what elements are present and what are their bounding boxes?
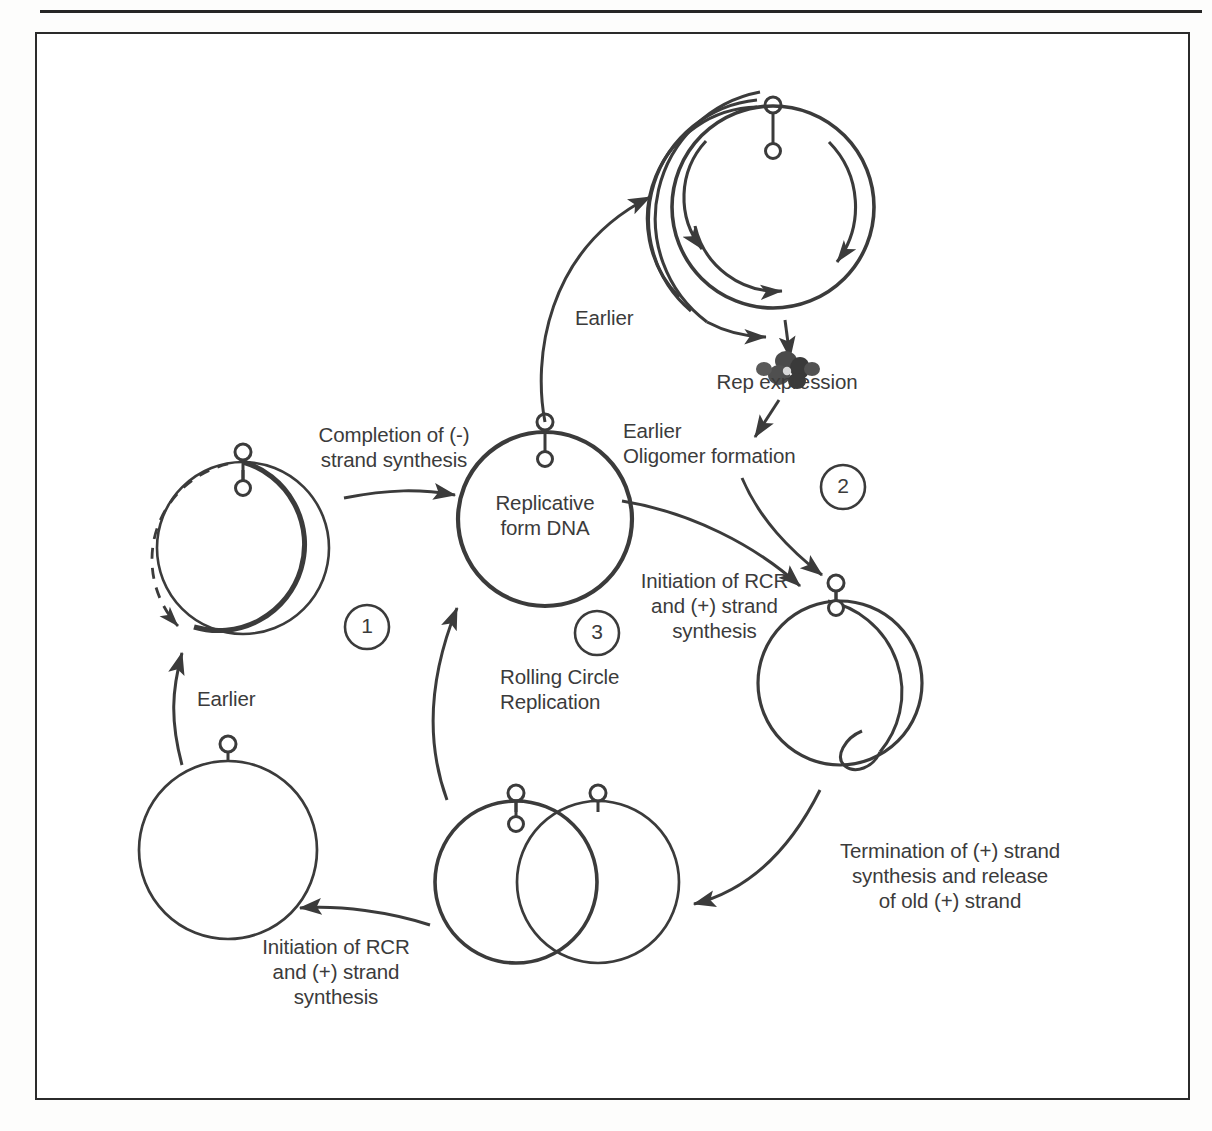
label-earlier-top: Earlier: [575, 305, 695, 330]
arrow-initiation-bottom: [300, 907, 430, 925]
label-initiation-rcr-bottom: Initiation of RCR and (+) strand synthes…: [230, 934, 442, 1009]
label-completion-minus-strand: Completion of (-) strand synthesis: [282, 422, 506, 472]
diagram-canvas: [0, 0, 1212, 1131]
step-badge-3-number: 3: [577, 619, 617, 644]
partially-double-stranded-circle: [152, 444, 329, 634]
step-badge-2-number: 2: [823, 473, 863, 498]
arrow-completion-minus-strand: [344, 491, 455, 498]
label-earlier-oligomer-formation: Earlier Oligomer formation: [623, 418, 873, 468]
step-badge-1-number: 1: [347, 613, 387, 638]
arrow-earlier-left: [174, 653, 182, 765]
label-earlier-left: Earlier: [197, 686, 317, 711]
label-termination: Termination of (+) strand synthesis and …: [800, 838, 1100, 913]
single-stranded-circle: [139, 736, 317, 939]
label-rolling-circle-replication: Rolling Circle Replication: [500, 664, 720, 714]
overlapping-twin-circles: [435, 785, 679, 963]
label-rep-expression: Rep expression: [672, 369, 902, 394]
label-replicative-form-dna: Replicative form DNA: [465, 490, 625, 540]
label-initiation-rcr-right: Initiation of RCR and (+) strand synthes…: [612, 568, 817, 643]
arrow-recycle-to-rf: [433, 608, 457, 800]
oligomer-circle: [647, 92, 874, 337]
figure-page: Completion of (-) strand synthesis Repli…: [0, 0, 1212, 1131]
